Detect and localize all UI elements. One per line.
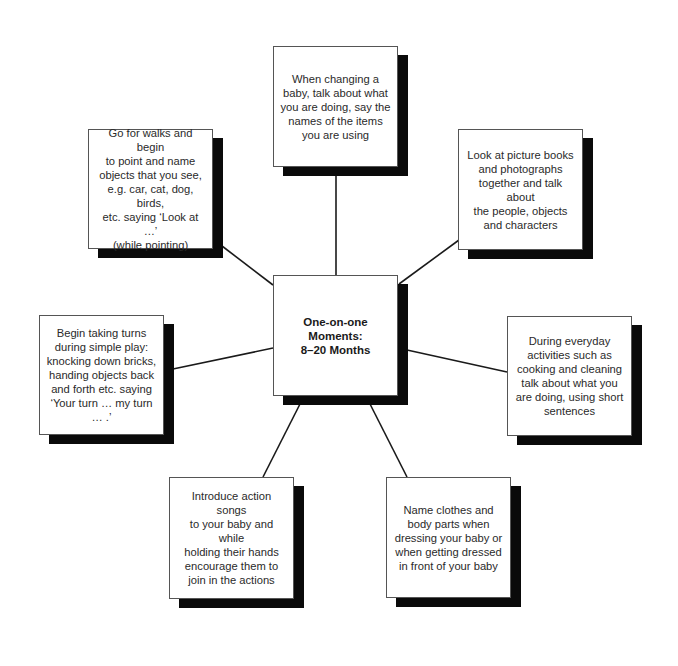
connector-right [407, 350, 507, 372]
node-bottom-left-text: Introduce action songs to your baby and … [170, 489, 293, 587]
connector-bottom-right [370, 404, 407, 477]
connector-top-left [222, 246, 273, 285]
node-bottom-left: Introduce action songs to your baby and … [169, 477, 294, 599]
node-top-left: Go for walks and begin to point and name… [88, 129, 213, 249]
connector-bottom-left [263, 404, 300, 477]
node-bottom-right: Name clothes and body parts when dressin… [386, 477, 511, 598]
node-right-text: During everyday activities such as cooki… [510, 334, 630, 418]
connector-left [173, 348, 273, 369]
node-right: During everyday activities such as cooki… [507, 316, 632, 436]
node-top-text: When changing a baby, talk about what yo… [274, 72, 396, 142]
node-left-text: Begin taking turns during simple play: k… [40, 326, 163, 424]
node-top-left-text: Go for walks and begin to point and name… [89, 126, 212, 252]
connector-top-right [399, 240, 459, 284]
center-node: One-on-one Moments: 8–20 Months [273, 275, 398, 396]
node-left: Begin taking turns during simple play: k… [39, 315, 164, 435]
node-top-right-text: Look at picture books and photographs to… [459, 148, 582, 232]
center-title: One-on-one Moments: 8–20 Months [295, 315, 377, 357]
node-top-right: Look at picture books and photographs to… [458, 129, 583, 250]
node-bottom-right-text: Name clothes and body parts when dressin… [389, 503, 509, 573]
node-top: When changing a baby, talk about what yo… [273, 46, 398, 167]
